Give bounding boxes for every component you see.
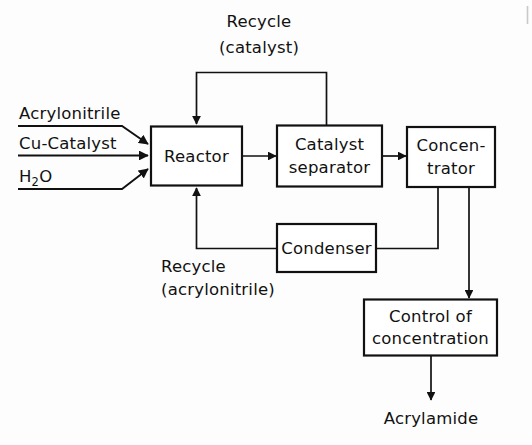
concentrator-to-condenser-line xyxy=(376,187,438,249)
box-catalyst-separator: Catalyst separator xyxy=(277,126,382,187)
reactor-label: Reactor xyxy=(164,147,229,166)
box-concentrator: Concen- trator xyxy=(407,127,495,187)
box-reactor: Reactor xyxy=(151,127,242,186)
feed-label-water-tail: O xyxy=(39,167,52,186)
condenser-label: Condenser xyxy=(281,239,372,258)
control-of-concentration-label-line1: Control of xyxy=(389,307,473,326)
recycle-acrylonitrile-label-line2: (acrylonitrile) xyxy=(161,280,275,299)
product-label-acrylamide: Acrylamide xyxy=(384,409,479,428)
recycle-acrylonitrile-label-line1: Recycle xyxy=(161,257,226,276)
recycle-catalyst-label-line2: (catalyst) xyxy=(219,38,299,57)
catalyst-separator-label-line2: separator xyxy=(289,158,370,177)
process-flow-diagram: Reactor Catalyst separator Concen- trato… xyxy=(0,0,532,445)
control-of-concentration-label-line2: concentration xyxy=(372,329,489,348)
feed-label-water-main: H xyxy=(19,167,32,186)
recycle-catalyst-line xyxy=(197,73,327,127)
feed-label-water-subscript: 2 xyxy=(32,175,40,189)
condenser-to-reactor-line xyxy=(197,188,278,249)
concentrator-label-line2: trator xyxy=(427,159,475,178)
flow-diagram-canvas: Reactor Catalyst separator Concen- trato… xyxy=(0,0,532,445)
concentrator-label-line1: Concen- xyxy=(416,136,485,155)
feed-label-water: H2O xyxy=(19,167,52,189)
catalyst-separator-label-line1: Catalyst xyxy=(295,135,365,154)
feed-label-cu-catalyst: Cu-Catalyst xyxy=(19,134,117,153)
feed-label-acrylonitrile: Acrylonitrile xyxy=(19,104,121,123)
box-condenser: Condenser xyxy=(277,224,376,272)
recycle-catalyst-label-line1: Recycle xyxy=(227,12,292,31)
box-control-of-concentration: Control of concentration xyxy=(364,300,497,356)
